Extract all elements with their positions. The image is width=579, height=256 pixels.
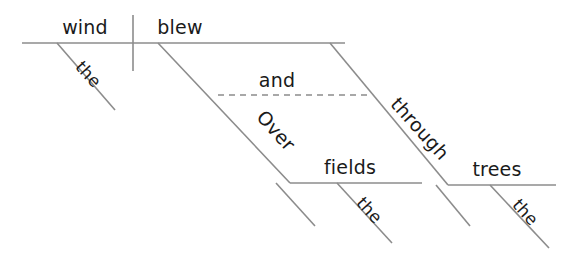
diagram-word-object-2: trees xyxy=(472,158,521,180)
sentence-diagram-svg: windblewtheandOverfieldsthethroughtreest… xyxy=(0,0,579,256)
diagram-word-subject: wind xyxy=(62,16,108,38)
diagram-word-preposition-2: through xyxy=(387,93,454,164)
diagram-word-object-1: fields xyxy=(324,156,376,178)
diagram-word-object-2-article: the xyxy=(508,195,542,230)
diagram-word-preposition-1: Over xyxy=(252,106,299,155)
diagram-words-group: windblewtheandOverfieldsthethroughtreest… xyxy=(62,16,542,229)
diagram-word-conjunction: and xyxy=(259,69,295,91)
diagram-word-subject-article: the xyxy=(71,57,105,92)
sentence-diagram-canvas: windblewtheandOverfieldsthethroughtreest… xyxy=(0,0,579,256)
diagram-word-object-1-article: the xyxy=(352,193,386,228)
diagram-line-preposition-2-slant-tail xyxy=(436,185,470,226)
diagram-line-preposition-1-slant-tail xyxy=(276,183,315,226)
diagram-word-verb: blew xyxy=(157,16,202,38)
